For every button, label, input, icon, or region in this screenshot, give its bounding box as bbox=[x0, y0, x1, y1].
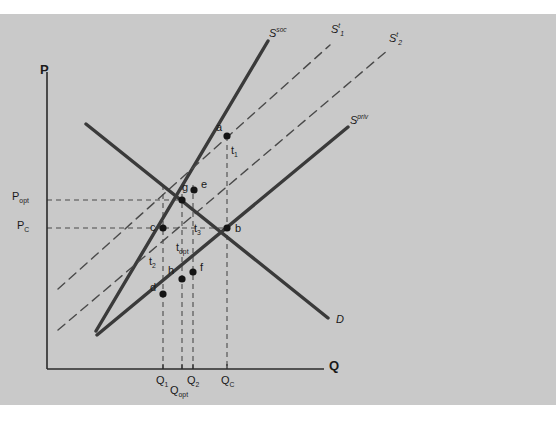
quantity-q1-label: Q1 bbox=[156, 374, 168, 388]
tax-topt-label: topt bbox=[176, 241, 189, 255]
point-a-label: a bbox=[216, 121, 222, 133]
d-label: D bbox=[336, 313, 344, 325]
quantity-q2-label: Q2 bbox=[187, 374, 199, 388]
curve-s_t1 bbox=[58, 45, 330, 289]
point-c-label: c bbox=[150, 221, 156, 233]
point-e-label: e bbox=[201, 178, 207, 190]
point-b-label: b bbox=[235, 222, 241, 234]
point-f-label: f bbox=[200, 261, 203, 273]
point-h-label: h bbox=[168, 264, 174, 276]
price-opt-label: Popt bbox=[12, 190, 29, 204]
point-e-marker bbox=[190, 186, 197, 193]
quantity-qopt-label: Qopt bbox=[170, 384, 188, 398]
point-g-marker bbox=[178, 196, 185, 203]
point-a-marker bbox=[223, 132, 230, 139]
tax-t3-label: t3 bbox=[194, 222, 201, 236]
s-soc-label: Ssoc bbox=[269, 26, 287, 39]
quantity-qc-label: QC bbox=[221, 374, 234, 388]
x-axis-title: Q bbox=[329, 358, 339, 373]
tax-t1-label: t1 bbox=[231, 144, 238, 158]
s-t2-label: St2 bbox=[389, 31, 402, 46]
price-c-label: PC bbox=[17, 219, 29, 233]
figure-root: P Q SsocSt1St2SprivD agecbfhd t1t3toptt2… bbox=[0, 0, 556, 424]
point-f-marker bbox=[189, 268, 196, 275]
point-g-label: g bbox=[182, 181, 188, 193]
tax-t2-label: t2 bbox=[149, 255, 156, 269]
diagram-canvas bbox=[0, 0, 556, 424]
point-c-marker bbox=[159, 224, 166, 231]
y-axis-title: P bbox=[40, 62, 49, 77]
s-t1-label: St1 bbox=[331, 22, 344, 37]
point-d-label: d bbox=[150, 281, 156, 293]
point-d-marker bbox=[159, 290, 166, 297]
point-h-marker bbox=[178, 275, 185, 282]
point-b-marker bbox=[223, 224, 230, 231]
curve-s_t2 bbox=[58, 50, 388, 330]
s-priv-label: Spriv bbox=[350, 113, 368, 126]
